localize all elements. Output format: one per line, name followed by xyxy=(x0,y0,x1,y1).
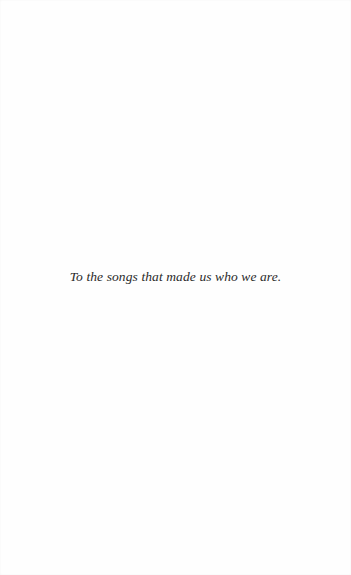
book-page: To the songs that made us who we are. xyxy=(0,0,351,575)
dedication-text: To the songs that made us who we are. xyxy=(0,268,351,286)
